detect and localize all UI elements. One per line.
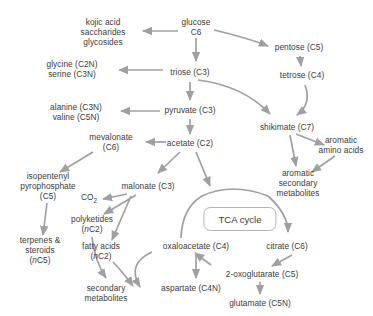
arrow-ipp-to-terpenes (43, 203, 47, 235)
arrow-acetate-to-tca (196, 152, 210, 186)
arrow-malonate-to-co2 (103, 194, 127, 199)
arrow-oxoglutarate-to-oxaloacetate (195, 253, 211, 265)
node-shikimate: shikimate (C7) (260, 122, 314, 132)
node-isopentenyl-pyrophosphate: isopentenyl pyrophosphate (C5) (20, 171, 76, 202)
node-triose: triose (C3) (170, 67, 209, 77)
node-oxaloacetate: oxaloacetate (C4) (163, 241, 229, 251)
arrow-citrate-to-oxoglutarate (272, 255, 292, 266)
node-citrate: citrate (C6) (266, 241, 308, 251)
metabolic-pathway-diagram: kojic acid saccharides glycosides glucos… (0, 0, 373, 316)
node-glucose: glucose C6 (182, 17, 211, 37)
node-glycine-serine: glycine (C2N) serine (C3N) (47, 59, 98, 79)
arrow-acetate-to-malonate (158, 152, 180, 173)
node-kojic-acid: kojic acid saccharides glycosides (81, 17, 126, 48)
node-glutamate: glutamate (C5N) (229, 298, 291, 308)
arrow-oxaloacetate-to-secondary (135, 252, 152, 287)
arrow-tetrose-to-shikimate (297, 85, 307, 115)
node-2-oxoglutarate: 2-oxoglutarate (C5) (226, 269, 298, 279)
node-secondary-metabolites: secondary metabolites (85, 283, 128, 303)
node-pentose: pentose (C5) (275, 42, 324, 52)
arrow-shikimate-to-aromatic-secondary (290, 135, 296, 166)
arrow-glucose-to-pentose (214, 30, 268, 46)
arrow-malonate-to-fatty-acids (112, 196, 131, 240)
node-alanine-valine: alanine (C3N) valine (C5N) (50, 102, 102, 122)
node-aspartate: aspartate (C4N) (161, 283, 221, 293)
node-mevalonate: mevalonate (C6) (89, 132, 132, 152)
node-malonate: malonate (C3) (121, 181, 174, 191)
node-aromatic-amino-acids: aromatic amino acids (319, 135, 364, 155)
node-terpenes-steroids: terpenes & steroids (nC5) (20, 235, 61, 266)
arrow-mevalonate-to-ipp (60, 152, 93, 172)
node-tca-cycle: TCA cycle (203, 207, 276, 231)
node-fatty-acids: fatty acids (nC2) (82, 241, 120, 261)
node-co2: CO2 (81, 192, 97, 206)
arrow-pentose-to-tetrose (300, 56, 301, 66)
node-acetate: acetate (C2) (167, 138, 213, 148)
node-polyketides: polyketides (nC2) (71, 214, 113, 234)
node-pyruvate: pyruvate (C3) (165, 105, 216, 115)
node-tetrose: tetrose (C4) (280, 70, 324, 80)
node-aromatic-secondary-metabolites: aromatic secondary metabolites (277, 168, 320, 199)
